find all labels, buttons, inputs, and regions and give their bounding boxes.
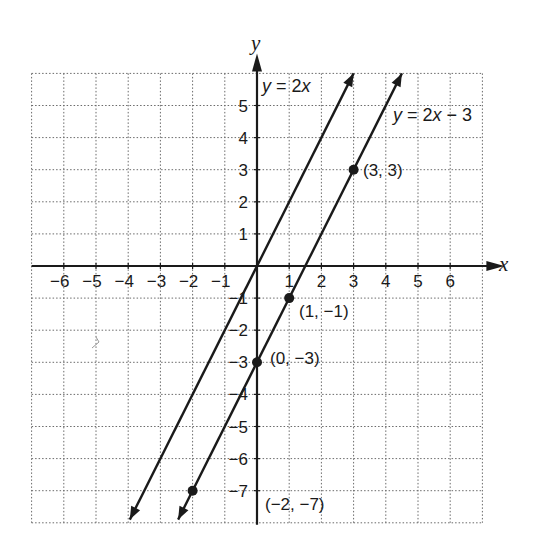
y-tick-label: 4 <box>239 129 248 148</box>
line-arrowhead-icon <box>392 73 402 87</box>
point-label-3-3: (3, 3) <box>363 161 403 180</box>
x-tick-label: 2 <box>317 272 326 291</box>
x-tick-label: −3 <box>147 272 166 291</box>
y-tick-label: −2 <box>229 321 248 340</box>
data-point <box>349 165 359 175</box>
y-tick-label: −3 <box>229 353 248 372</box>
stray-mark <box>92 337 99 348</box>
x-tick-label: 4 <box>381 272 390 291</box>
y-tick-label: 2 <box>239 193 248 212</box>
line-arrowhead-icon <box>130 506 140 520</box>
point-label-1-minus-1: (1, −1) <box>299 302 349 321</box>
eq2-mid: = 2 <box>402 105 433 125</box>
y-axis-arrow-icon <box>252 53 262 71</box>
x-tick-label: −4 <box>115 272 134 291</box>
plot-lines <box>130 73 402 519</box>
y-axis-title: y <box>249 31 261 55</box>
line-arrowhead-icon <box>178 506 188 520</box>
y-tick-label: −5 <box>229 418 248 437</box>
coordinate-plane-chart: −6−5−4−3−2−112345654321−1−2−3−4−5−6−7 y … <box>0 0 549 547</box>
equation-label-y-equals-2x-minus-3: y = 2x − 3 <box>391 105 472 125</box>
x-tick-label: −5 <box>82 272 101 291</box>
point-label-0-minus-3: (0, −3) <box>270 349 320 368</box>
x-tick-label: 5 <box>413 272 422 291</box>
x-tick-label: 1 <box>284 272 293 291</box>
eq2-rest: − 3 <box>442 105 473 125</box>
y-tick-label: 1 <box>239 225 248 244</box>
point-label-minus-2-minus-7: (−2, −7) <box>265 495 325 514</box>
eq1-rest: = 2 <box>271 76 302 96</box>
line-arrowhead-icon <box>343 73 353 87</box>
eq1-x: x <box>301 76 312 96</box>
equation-label-y-equals-2x: y = 2x <box>260 76 312 96</box>
x-axis-title: x <box>498 252 509 276</box>
y-tick-label: −6 <box>229 450 248 469</box>
x-tick-label: −1 <box>211 272 230 291</box>
data-point <box>188 486 198 496</box>
svg-text:y = 2x − 3: y = 2x − 3 <box>391 105 472 125</box>
data-point <box>252 357 262 367</box>
x-tick-label: −6 <box>50 272 69 291</box>
data-point <box>284 293 294 303</box>
x-tick-label: 6 <box>445 272 454 291</box>
x-tick-label: 3 <box>349 272 358 291</box>
y-tick-label: 3 <box>239 161 248 180</box>
y-tick-label: 5 <box>239 97 248 116</box>
y-tick-label: −7 <box>229 482 248 501</box>
x-tick-label: −2 <box>179 272 198 291</box>
